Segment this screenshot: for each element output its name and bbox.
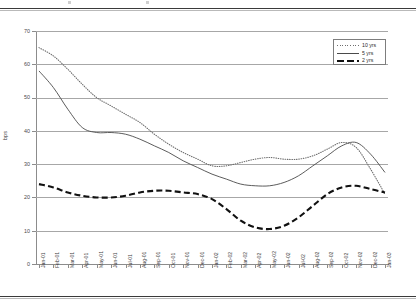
- y-axis-title: bps: [2, 131, 8, 140]
- series-line-2-yrs: [39, 184, 385, 229]
- series-line-5-yrs: [39, 71, 385, 186]
- y-axis-tick-label: 50: [14, 94, 30, 100]
- dotted-line-swatch: [337, 42, 359, 49]
- legend-label: 5 yrs: [362, 50, 373, 57]
- scan-speck: [68, 1, 71, 4]
- y-axis-tick-label: 0: [14, 261, 30, 267]
- y-axis-tick-label: 60: [14, 61, 30, 67]
- line-chart: 706050403020100 bps Jan-01Feb-01Mar-01Ap…: [0, 12, 416, 294]
- solid-line-swatch: [337, 50, 359, 57]
- legend-item-5yrs: 5 yrs: [337, 50, 382, 57]
- legend-item-2yrs: 2 yrs: [337, 57, 382, 64]
- scan-speck: [146, 1, 149, 4]
- series-lines: [36, 31, 388, 265]
- legend-label: 10 yrs: [362, 42, 376, 49]
- dashed-line-swatch: [337, 57, 359, 64]
- series-line-10-yrs: [39, 48, 385, 194]
- page-rule-top: [0, 8, 416, 9]
- chart-legend: 10 yrs 5 yrs 2 yrs: [333, 39, 386, 65]
- y-axis-tick-label: 40: [14, 128, 30, 134]
- page-rule-bottom-faint: [0, 298, 416, 299]
- page-rule-bottom: [0, 296, 416, 297]
- page-rule-top-faint: [0, 10, 416, 11]
- legend-item-10yrs: 10 yrs: [337, 42, 382, 49]
- y-axis-tick-label: 10: [14, 228, 30, 234]
- page-canvas: 706050403020100 bps Jan-01Feb-01Mar-01Ap…: [0, 0, 416, 306]
- y-axis-tick-label: 70: [14, 28, 30, 34]
- y-axis-tick-label: 20: [14, 194, 30, 200]
- legend-label: 2 yrs: [362, 57, 373, 64]
- y-axis-tick-label: 30: [14, 161, 30, 167]
